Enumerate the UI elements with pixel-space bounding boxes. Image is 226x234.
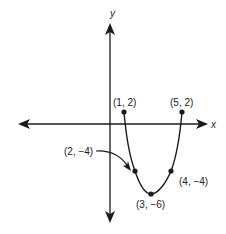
label-point-5-2: (5, 2) xyxy=(170,97,193,108)
point-4-neg4 xyxy=(168,168,173,173)
callout-label: (2, −4) xyxy=(64,146,93,157)
point-3-neg6 xyxy=(148,191,153,196)
point-1-2 xyxy=(121,109,126,114)
point-5-2 xyxy=(179,109,184,114)
x-axis xyxy=(18,119,208,129)
point-2-neg4 xyxy=(132,168,137,173)
label-point-3-neg6: (3, −6) xyxy=(136,199,165,210)
x-axis-label: x xyxy=(210,119,217,130)
coordinate-graph: x y (1, 2) (5, 2) (3, −6) (4, −4) (2, −4… xyxy=(0,0,226,234)
y-axis xyxy=(105,23,115,223)
label-point-4-neg4: (4, −4) xyxy=(179,176,208,187)
callout-arrowhead-icon xyxy=(123,161,131,171)
y-axis-label: y xyxy=(109,8,116,19)
label-point-1-2: (1, 2) xyxy=(113,97,136,108)
callout-arrow xyxy=(96,151,128,167)
